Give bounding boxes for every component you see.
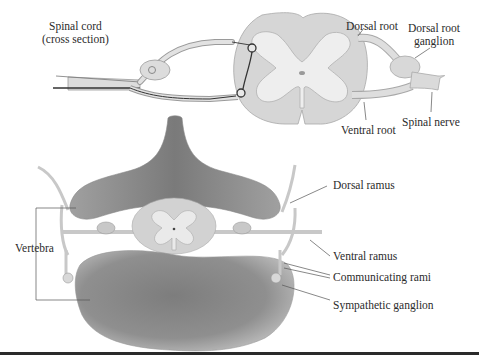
label-spinal-cord-line1: Spinal cord xyxy=(42,20,109,33)
label-sympathetic-ganglion: Sympathetic ganglion xyxy=(333,299,434,312)
label-ventral-ramus: Ventral ramus xyxy=(333,250,397,263)
label-spinal-nerve: Spinal nerve xyxy=(402,116,460,129)
label-dorsal-root-ganglion: Dorsal root ganglion xyxy=(408,22,460,48)
vertebral-body xyxy=(75,251,294,351)
label-spinal-cord-line2: (cross section) xyxy=(42,33,109,46)
label-communicating-rami: Communicating rami xyxy=(333,271,431,284)
motor-neuron-cell xyxy=(237,89,245,97)
left-sympathetic-ganglion xyxy=(63,273,73,283)
label-ventral-root: Ventral root xyxy=(341,124,396,137)
bottom-rule xyxy=(0,352,479,355)
label-dorsal-root-ganglion-line1: Dorsal root xyxy=(408,22,460,35)
right-sympathetic-ganglion xyxy=(271,273,281,283)
label-vertebra: Vertebra xyxy=(15,242,54,255)
lower-panel xyxy=(36,116,330,351)
label-spinal-cord: Spinal cord (cross section) xyxy=(42,20,109,46)
lower-spinal-cord xyxy=(132,198,216,254)
label-dorsal-root: Dorsal root xyxy=(346,20,398,33)
spinal-anatomy-diagram: Spinal cord (cross section) Dorsal root … xyxy=(0,0,479,360)
label-dorsal-root-ganglion-line2: ganglion xyxy=(408,35,460,48)
right-spinal-nerve xyxy=(410,72,445,90)
label-dorsal-ramus: Dorsal ramus xyxy=(333,179,395,192)
